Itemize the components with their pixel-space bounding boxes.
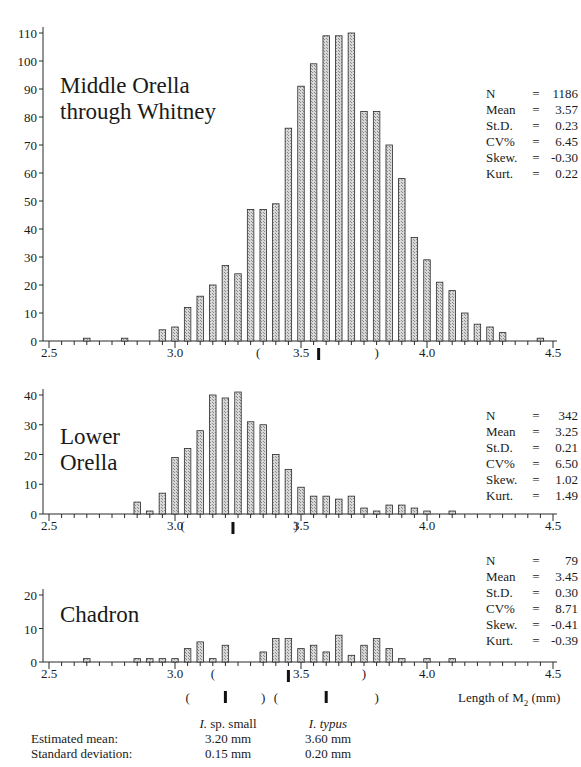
histogram-bar [134,659,141,662]
histogram-bar [172,659,179,662]
y-tick-label: 80 [24,110,37,125]
histogram-bar [172,327,179,341]
stat-label: Mean [486,102,530,118]
y-tick-label: 0 [31,507,38,522]
stat-row: CV%=8.71 [486,601,578,617]
range-bracket-right: ) [362,666,366,681]
stat-value: -0.41 [542,617,578,633]
stat-row: CV%=6.50 [486,456,578,472]
histogram-bar [373,511,380,514]
y-tick-label: 90 [24,82,37,97]
range-bracket-left: ( [256,345,260,360]
mean-marker [231,522,234,534]
x-tick-label: 2.5 [41,345,57,360]
histogram-bar [260,425,267,514]
standard-deviation-label: Standard deviation: [31,746,132,761]
histogram-bar [235,392,242,514]
x-tick-label: 3.5 [293,345,309,360]
stat-equals: = [530,472,542,488]
histogram-bar [336,499,343,514]
x-tick-label: 2.5 [41,666,57,681]
stat-value: 3.25 [542,424,578,440]
histogram-bar [285,469,292,514]
histogram-bar [323,652,330,662]
histogram-bar [348,33,355,341]
histogram-bar [260,652,267,662]
stat-row: Mean=3.45 [486,569,578,585]
y-tick-label: 100 [18,54,38,69]
histogram-bar [84,659,91,662]
histogram-bar [210,659,217,662]
y-tick-label: 10 [24,622,37,637]
stat-value: 8.71 [542,601,578,617]
y-tick-label: 40 [24,222,37,237]
range-bracket-left: ( [211,666,215,681]
histogram-bar [399,505,406,514]
histogram-bar [487,327,494,341]
stat-equals: = [530,86,542,102]
stat-label: Mean [486,424,530,440]
x-tick-label: 4.5 [545,345,561,360]
y-tick-label: 70 [24,138,37,153]
histogram-bar [336,635,343,662]
histogram-bar [323,36,330,341]
histogram-bar [159,493,166,514]
stat-row: N=342 [486,408,578,424]
panel-title-lower-orella: Lower Orella [60,424,120,476]
histogram-bar [399,179,406,341]
y-tick-label: 20 [24,588,37,603]
stat-value: 1.49 [542,488,578,504]
stat-label: N [486,86,530,102]
x-tick-label: 4.5 [545,666,561,681]
histogram-bar [298,487,305,514]
histogram-bar [197,431,204,514]
panel-title-chadron: Chadron [60,602,139,628]
stat-label: Kurt. [486,488,530,504]
stat-value: 1186 [542,86,578,102]
stat-label: CV% [486,456,530,472]
histogram-bar [147,659,154,662]
histogram-bar [184,649,191,662]
chart-middle-orella: 01020304050607080901001102.53.03.54.04.5… [0,0,581,370]
group-mean-marker [325,691,328,703]
y-tick-label: 0 [31,655,38,670]
stat-value: -0.39 [542,633,578,649]
stat-value: 3.57 [542,102,578,118]
stat-row: Kurt.=1.49 [486,488,578,504]
stat-row: Mean=3.57 [486,102,578,118]
footer-row-labels: Estimated mean: Standard deviation: [31,731,132,761]
histogram-bar [222,265,229,341]
stat-label: CV% [486,601,530,617]
stat-label: Kurt. [486,633,530,649]
histogram-bar [386,649,393,662]
histogram-bar [247,422,254,514]
stat-row: St.D.=0.23 [486,118,578,134]
histogram-bar [462,313,469,341]
histogram-bar [474,324,481,341]
x-tick-label: 2.5 [41,518,57,533]
range-bracket-right: ) [294,518,298,533]
histogram-bar [273,455,280,515]
histogram-bar [361,111,368,341]
stat-equals: = [530,440,542,456]
stat-equals: = [530,134,542,150]
histogram-bar [361,508,368,514]
stat-equals: = [530,601,542,617]
histogram-bar [210,395,217,514]
histogram-bar [361,645,368,662]
histogram-bar [323,496,330,514]
stat-row: Kurt.=-0.39 [486,633,578,649]
stat-label: Mean [486,569,530,585]
histogram-bar [273,639,280,662]
stat-row: N=1186 [486,86,578,102]
panel-title-middle-orella: Middle Orella through Whitney [60,73,216,125]
x-axis-label: Length of M2 (mm) [458,690,560,711]
group-bracket-right: ) [261,690,265,705]
stats-middle-orella: N=1186Mean=3.57St.D.=0.23CV%=6.45Skew.=-… [486,86,578,182]
histogram-bar [134,502,141,514]
stat-label: Skew. [486,617,530,633]
histogram-bar [222,398,229,514]
y-tick-label: 40 [24,388,37,403]
histogram-bar [424,659,431,662]
x-tick-label: 4.0 [419,518,435,533]
